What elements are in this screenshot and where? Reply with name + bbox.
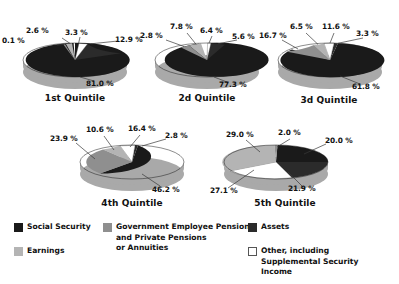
pct-label-q3-social-security: 61.8 % [352,82,380,91]
pie-chart-5th-quintile: 29.0 % 2.0 % 20.0 % 21.9 % 27.1 % 5th Qu… [208,128,358,212]
pct-label-q4-assets: 2.8 % [165,131,188,140]
pie-title-5th-quintile: 5th Quintile [210,198,360,208]
pct-label-q3-earnings: 6.5 % [290,22,313,31]
pie-chart-2d-quintile: 2.8 % 7.8 % 6.4 % 5.6 % 77.3 % 2d Quinti… [142,26,272,106]
chart-canvas: 0.1 % 2.6 % 3.3 % 12.9 % 81.0 % 1st Quin… [0,0,399,284]
pie-chart-4th-quintile: 23.9 % 10.6 % 16.4 % 2.8 % 46.2 % 4th Qu… [62,128,202,212]
legend-label-social-security: Social Security [27,222,91,233]
legend-label-government-private-pensions: Government Employee Pensions and Private… [116,222,254,254]
pct-label-q2-social-security: 77.3 % [219,80,247,89]
pie-title-3d-quintile: 3d Quintile [264,95,394,105]
pct-label-q1-other-ssi: 3.3 % [65,28,88,37]
legend-swatch-government-private-pensions [103,223,112,232]
pie-chart-3d-quintile: 16.7 % 6.5 % 11.6 % 3.3 % 61.8 % 3d Quin… [268,26,398,106]
pct-label-q3-other-ssi: 11.6 % [322,22,350,31]
pie-title-2d-quintile: 2d Quintile [142,93,272,103]
legend-item-earnings: Earnings [14,246,64,257]
legend-label-earnings: Earnings [27,246,64,257]
legend-item-other-ssi: Other, including Supplemental Security I… [248,246,392,278]
pct-label-q5-earnings: 29.0 % [226,130,254,139]
pct-label-q2-assets: 5.6 % [232,32,255,41]
pct-label-q4-other-ssi: 16.4 % [128,124,156,133]
legend-item-social-security: Social Security [14,222,91,233]
legend-label-assets: Assets [261,222,289,233]
pct-label-q5-gov-pensions: 2.0 % [278,128,301,137]
legend-swatch-other-ssi [248,247,257,256]
pct-label-q5-other-ssi: 27.1 % [210,186,238,195]
pct-label-q1-gov-pensions: 0.1 % [2,36,25,45]
legend-swatch-assets [248,223,257,232]
pct-label-q2-earnings: 7.8 % [170,22,193,31]
pct-label-q2-other-ssi: 6.4 % [200,26,223,35]
legend-item-assets: Assets [248,222,289,233]
legend-label-other-ssi: Other, including Supplemental Security I… [261,246,392,278]
pct-label-q2-gov-pensions: 2.8 % [140,31,163,40]
pie-chart-1st-quintile: 0.1 % 2.6 % 3.3 % 12.9 % 81.0 % 1st Quin… [10,26,140,106]
pct-label-q1-social-security: 81.0 % [86,79,114,88]
pct-label-q5-assets: 21.9 % [288,184,316,193]
legend-swatch-earnings [14,247,23,256]
pct-label-q3-assets: 3.3 % [356,29,379,38]
pct-label-q1-earnings: 2.6 % [26,26,49,35]
pct-label-q5-social-security: 20.0 % [325,136,353,145]
legend-swatch-social-security [14,223,23,232]
pct-label-q4-social-security: 46.2 % [152,185,180,194]
pie-title-4th-quintile: 4th Quintile [62,198,202,208]
pct-label-q4-earnings: 10.6 % [86,125,114,134]
pct-label-q1-assets: 12.9 % [115,35,143,44]
pct-label-q4-gov-pensions: 23.9 % [50,134,78,143]
legend-item-government-private-pensions: Government Employee Pensions and Private… [103,222,254,254]
pct-label-q3-gov-pensions: 16.7 % [259,31,287,40]
pie-title-1st-quintile: 1st Quintile [10,93,140,103]
chart-legend: Social Security Earnings Government Empl… [14,222,392,278]
